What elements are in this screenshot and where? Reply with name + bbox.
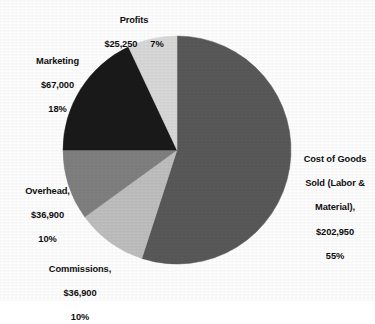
pie-label-marketing-name: Marketing [6,55,109,67]
pie-label-cogs-value: $202,950 [295,226,375,238]
pie-label-cogs-line2: Sold (Labor & [295,177,375,189]
pie-label-profits-percent: 7% [150,38,163,50]
pie-label-marketing-percent: 18% [6,103,109,115]
pie-label-marketing: Marketing $67,000 18% [6,43,109,128]
pie-label-commissions-name: Commissions, [25,263,135,275]
pie-label-overhead-name: Overhead, [0,185,95,197]
pie-label-overhead-value: $36,900 [0,209,95,221]
pie-label-commissions: Commissions, $36,900 10% [25,251,135,324]
pie-label-cost-of-goods-sold: Cost of Goods Sold (Labor & Material), $… [295,141,375,274]
pie-label-profits-value: $25,250 [104,39,137,49]
pie-label-marketing-value: $67,000 [6,79,109,91]
pie-label-cogs-percent: 55% [295,250,375,262]
pie-label-overhead: Overhead, $36,900 10% [0,173,95,258]
pie-label-cogs-line1: Cost of Goods [295,153,375,165]
pie-label-overhead-percent: 10% [0,233,95,245]
pie-label-profits-name: Profits [72,14,196,26]
pie-label-cogs-line3: Material), [295,201,375,213]
pie-label-commissions-value: $36,900 [25,287,135,299]
pie-label-commissions-percent: 10% [25,311,135,323]
